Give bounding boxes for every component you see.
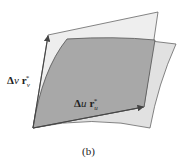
dv-rv-label: Δvrv* bbox=[7, 74, 31, 89]
figure-caption: (b) bbox=[82, 145, 95, 158]
tangent-plane-diagram: Δvrv* Δuru* (b) bbox=[0, 0, 192, 164]
